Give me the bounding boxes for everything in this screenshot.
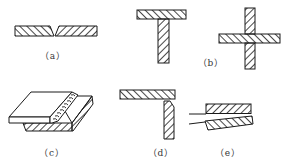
label-c: （c） <box>39 146 65 159</box>
t-joint-figure <box>137 10 186 63</box>
butt-joint-figure <box>15 26 97 36</box>
cruciform-joint-figure <box>219 8 280 69</box>
corner-joint-figure <box>120 90 175 139</box>
diagram-graphics <box>0 0 286 165</box>
lap-edge-joint-figure <box>189 104 253 130</box>
label-b: （b） <box>198 56 225 69</box>
lap-joint-3d-figure <box>9 92 93 131</box>
label-e: （e） <box>215 146 241 159</box>
welded-joint-diagram: （a） （b） （c） （d） （e） <box>0 0 286 165</box>
label-d: （d） <box>148 146 175 159</box>
label-a: （a） <box>40 49 66 62</box>
